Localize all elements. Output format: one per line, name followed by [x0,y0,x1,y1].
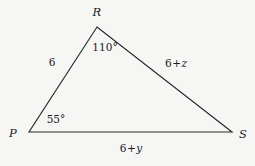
vertex-label-r: R [93,7,102,19]
side-ps-variable: y [136,142,142,154]
side-rs-operator: + [172,57,182,69]
side-pr-value: 6 [49,56,56,68]
angle-label-r: 110° [92,42,117,53]
angle-label-p: 55° [47,114,66,125]
side-label-ps: 6+y [120,143,142,154]
triangle-figure: R P S 110° 55° 6 6+z 6+y [0,0,255,166]
vertex-label-p: P [9,128,17,140]
side-ps-constant: 6 [120,142,127,154]
side-rs-variable: z [181,57,187,69]
side-rs-constant: 6 [165,57,172,69]
side-ps-operator: + [126,142,136,154]
side-label-rs: 6+z [165,58,187,69]
side-label-pr: 6 [49,57,56,68]
vertex-label-s: S [239,129,247,141]
